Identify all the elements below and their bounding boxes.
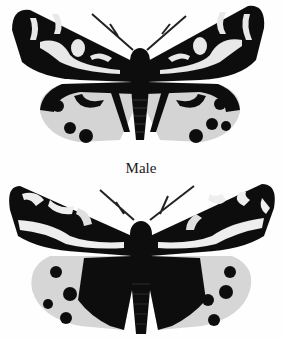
top-moth <box>12 6 264 143</box>
bottom-moth <box>9 184 275 334</box>
male-label: Male <box>0 160 282 177</box>
moth-illustration: Male <box>0 0 282 340</box>
